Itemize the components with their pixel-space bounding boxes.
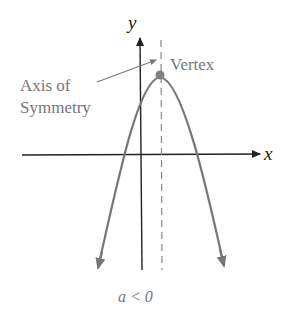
vertex-point: [156, 71, 165, 80]
axis-of-symmetry-pointer: [97, 60, 156, 82]
axis-of-symmetry-label-line1: Axis of: [20, 76, 71, 95]
axis-of-symmetry-label-line2: Symmetry: [20, 98, 91, 117]
vertex-label: Vertex: [170, 55, 215, 74]
caption-a-less-than-zero: a < 0: [118, 288, 153, 305]
parabola-diagram: y x Vertex Axis of Symmetry a < 0: [0, 0, 291, 314]
y-axis-label: y: [126, 12, 137, 33]
x-axis-label: x: [263, 143, 273, 164]
y-axis: [140, 38, 142, 270]
